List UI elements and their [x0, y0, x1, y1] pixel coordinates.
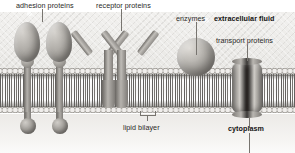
- leader-transport-proteins: [247, 45, 248, 61]
- bracket-lipid-bilayer: [140, 111, 156, 116]
- leader-cytoplasm-lower: [249, 133, 250, 153]
- leader-enzymes: [196, 22, 197, 55]
- adhesion-protein-1-head: [14, 22, 40, 62]
- leader-adhesion-proteins: [42, 9, 43, 22]
- receptor-protein-2-foot: [115, 80, 128, 108]
- transport-protein-barrel: [232, 61, 262, 115]
- receptor-protein-1-foot: [102, 80, 115, 108]
- label-lipid-bilayer: lipid bilayer: [123, 123, 160, 132]
- label-cytoplasm: cytoplasm: [228, 124, 264, 133]
- label-extracellular-fluid: extracellular fluid: [214, 14, 274, 23]
- leader-receptor-proteins: [121, 9, 122, 31]
- label-receptor-proteins: receptor proteins: [96, 1, 151, 10]
- adhesion-protein-2-stalk: [56, 60, 63, 120]
- cell-membrane-diagram: adhesion proteins receptor proteins enzy…: [0, 0, 295, 153]
- label-transport-proteins: transport proteins: [216, 36, 273, 45]
- adhesion-protein-1-stalk: [24, 60, 31, 120]
- adhesion-protein-2-head: [46, 22, 72, 62]
- label-enzymes: enzymes: [176, 14, 205, 23]
- adhesion-protein-1-inner-knob: [20, 118, 36, 134]
- label-adhesion-proteins: adhesion proteins: [16, 1, 74, 10]
- adhesion-protein-2-inner-knob: [52, 118, 68, 134]
- leader-lipid-bilayer: [147, 115, 148, 121]
- transport-protein-inner-cap: [232, 111, 262, 118]
